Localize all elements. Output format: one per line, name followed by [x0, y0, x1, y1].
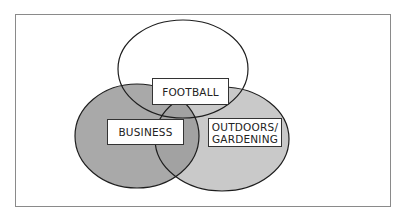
venn-diagram — [0, 0, 407, 219]
football-label: FOOTBALL — [152, 78, 229, 105]
business-label: BUSINESS — [107, 119, 184, 145]
football-label-text: FOOTBALL — [162, 86, 219, 98]
outdoors-label-line1: OUTDOORS/ — [212, 121, 278, 133]
outdoors-label-line2: GARDENING — [212, 133, 278, 145]
outdoors-gardening-label: OUTDOORS/ GARDENING — [208, 118, 282, 147]
business-label-text: BUSINESS — [118, 126, 172, 138]
